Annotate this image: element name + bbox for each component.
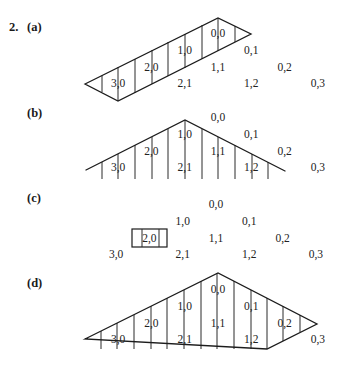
cell-label-0-2: 0,2	[275, 232, 290, 245]
cell-label-1-2: 1,2	[244, 333, 259, 346]
part-c: (c)0,01,00,12,01,10,23,02,11,20,3	[27, 191, 323, 261]
part-label-c: (c)	[27, 191, 41, 205]
cell-label-0-1: 0,1	[242, 215, 257, 228]
cell-label-0-2: 0,2	[277, 145, 292, 158]
cell-label-0-1: 0,1	[244, 128, 259, 141]
cell-label-2-1: 2,1	[176, 248, 191, 261]
cell-label-0-1: 0,1	[244, 300, 259, 313]
cell-label-2-1: 2,1	[178, 77, 193, 90]
cell-labels: 0,01,00,12,01,10,23,02,11,20,3	[111, 27, 325, 90]
cell-labels: 0,01,00,12,01,10,23,02,11,20,3	[111, 283, 325, 346]
cell-label-1-0: 1,0	[178, 128, 193, 141]
cell-labels: 0,01,00,12,01,10,23,02,11,20,3	[109, 198, 323, 261]
cell-label-3-0: 3,0	[111, 333, 126, 346]
cell-label-0-3: 0,3	[311, 333, 326, 346]
cell-label-3-0: 3,0	[111, 77, 126, 90]
cell-label-0-1: 0,1	[244, 44, 259, 57]
cell-label-1-2: 1,2	[244, 161, 259, 174]
cell-label-1-1: 1,1	[209, 232, 224, 245]
problem-number: 2.	[9, 20, 18, 34]
cell-label-3-0: 3,0	[109, 248, 124, 261]
cell-label-1-0: 1,0	[178, 44, 193, 57]
cell-label-1-1: 1,1	[211, 145, 226, 158]
part-d: (d)0,01,00,12,01,10,23,02,11,20,3	[27, 273, 325, 349]
cell-label-2-0: 2,0	[142, 232, 157, 245]
part-label-b: (b)	[27, 106, 42, 120]
cell-label-0-2: 0,2	[277, 317, 292, 330]
cell-label-1-0: 1,0	[178, 300, 193, 313]
hatch-lines	[101, 273, 300, 349]
cell-label-2-1: 2,1	[178, 161, 193, 174]
cell-label-0-0: 0,0	[211, 27, 226, 40]
cell-label-1-2: 1,2	[244, 77, 259, 90]
cell-label-3-0: 3,0	[111, 161, 126, 174]
cell-label-0-3: 0,3	[311, 77, 326, 90]
problem-heading: 2.	[9, 20, 18, 34]
part-label-a: (a)	[27, 20, 42, 34]
cell-label-0-0: 0,0	[211, 283, 226, 296]
cell-label-0-2: 0,2	[277, 61, 292, 74]
cell-label-0-3: 0,3	[311, 161, 326, 174]
cell-label-2-1: 2,1	[178, 333, 193, 346]
part-b: (b)0,01,00,12,01,10,23,02,11,20,3	[27, 106, 325, 179]
cell-label-2-0: 2,0	[144, 145, 159, 158]
cell-label-1-1: 1,1	[211, 317, 226, 330]
cell-label-1-1: 1,1	[211, 61, 226, 74]
lattice-diagram: 2. (a)0,01,00,12,01,10,23,02,11,20,3(b)0…	[0, 0, 341, 365]
cell-label-1-2: 1,2	[242, 248, 257, 261]
cell-label-1-0: 1,0	[176, 215, 191, 228]
part-a: (a)0,01,00,12,01,10,23,02,11,20,3	[27, 18, 325, 101]
cell-label-0-0: 0,0	[211, 111, 226, 124]
part-label-d: (d)	[27, 276, 42, 290]
cell-label-2-0: 2,0	[144, 317, 159, 330]
parts-container: (a)0,01,00,12,01,10,23,02,11,20,3(b)0,01…	[27, 18, 325, 349]
cell-label-2-0: 2,0	[144, 61, 159, 74]
cell-label-0-0: 0,0	[209, 198, 224, 211]
cell-label-0-3: 0,3	[309, 248, 324, 261]
